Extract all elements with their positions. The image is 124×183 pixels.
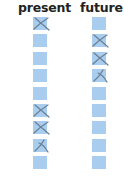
future-checkbox-4[interactable]	[92, 69, 106, 82]
present-checkbox-column	[33, 17, 47, 174]
future-checkbox-7[interactable]	[92, 121, 106, 134]
present-checkbox-3[interactable]	[33, 52, 47, 65]
present-checkbox-7[interactable]	[33, 121, 47, 134]
present-checkbox-6[interactable]	[33, 104, 47, 117]
future-checkbox-2[interactable]	[92, 34, 106, 47]
present-checkbox-1[interactable]	[33, 17, 47, 30]
present-checkbox-8[interactable]	[33, 139, 47, 152]
future-checkbox-9[interactable]	[92, 156, 106, 169]
present-column-header: present	[18, 0, 71, 15]
future-checkbox-6[interactable]	[92, 104, 106, 117]
present-checkbox-5[interactable]	[33, 87, 47, 100]
partial-x-mark-icon	[30, 136, 52, 156]
future-checkbox-1[interactable]	[92, 17, 106, 30]
x-mark-icon	[30, 14, 52, 34]
future-checkbox-column	[92, 17, 106, 174]
future-column-header: future	[80, 0, 123, 15]
present-checkbox-2[interactable]	[33, 34, 47, 47]
partial-x-mark-icon	[89, 66, 111, 86]
future-checkbox-3[interactable]	[92, 52, 106, 65]
future-checkbox-5[interactable]	[92, 87, 106, 100]
present-checkbox-4[interactable]	[33, 69, 47, 82]
present-checkbox-9[interactable]	[33, 156, 47, 169]
future-checkbox-8[interactable]	[92, 139, 106, 152]
